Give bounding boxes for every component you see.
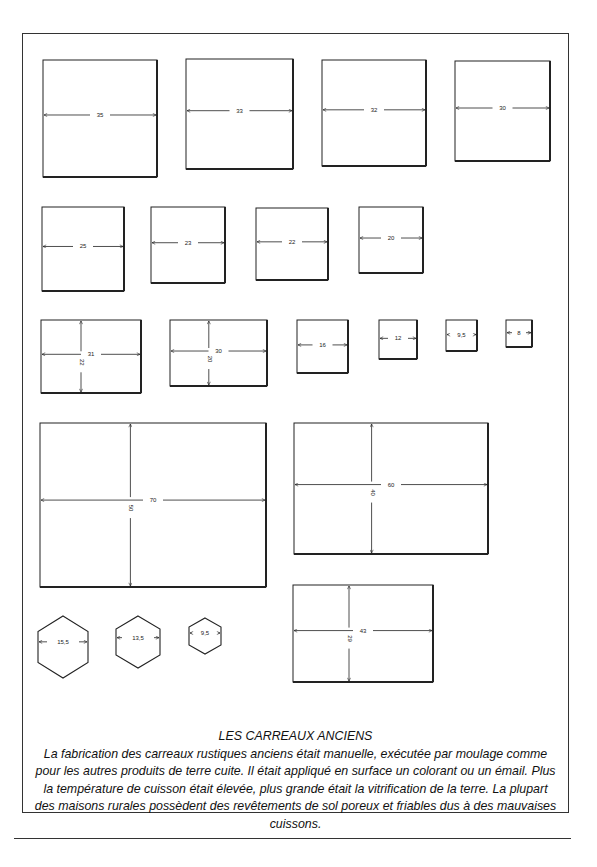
tile-rect-60x40: 6040 [294,423,488,554]
tile-sq-35: 35 [43,60,157,177]
width-label: 9,5 [201,630,210,636]
width-label: 60 [388,482,395,488]
width-label: 8 [517,330,521,336]
width-label: 25 [80,243,87,249]
tile-hex-13-5: 13,5 [116,616,160,668]
tile-sq-32: 32 [322,60,426,166]
tile-sq-12: 12 [379,320,417,359]
height-label: 22 [79,359,85,366]
tile-hex-9-5: 9,5 [189,618,221,654]
width-label: 32 [371,107,378,113]
width-label: 31 [88,351,95,357]
tile-rect-43x29: 4329 [293,585,433,682]
width-label: 30 [215,348,222,354]
tile-sq-8: 8 [506,320,532,347]
tile-rect-30x20: 3020 [170,320,267,386]
tile-rect-31x22: 3122 [41,320,141,393]
width-label: 9,5 [457,332,466,338]
width-label: 23 [185,240,192,246]
height-label: 29 [347,635,353,642]
width-label: 30 [499,105,506,111]
width-label: 33 [236,108,243,114]
width-label: 35 [97,112,104,118]
tile-sq-33: 33 [186,59,293,169]
tile-sq-16: 16 [297,320,348,373]
caption-title: LES CARREAUX ANCIENS [22,728,569,746]
tile-sq-30: 30 [455,61,550,161]
height-label: 20 [207,356,213,363]
tile-sq-9-5: 9,5 [446,320,477,351]
height-label: 50 [128,505,134,512]
figure-caption: LES CARREAUX ANCIENS La fabrication des … [22,728,569,834]
tile-rect-70x50: 7050 [40,423,266,587]
tile-sq-20: 20 [359,207,423,273]
tile-sq-25: 25 [42,207,124,291]
width-label: 16 [319,342,326,348]
width-label: 20 [388,235,395,241]
width-label: 43 [360,628,367,634]
tile-sq-23: 23 [151,207,225,283]
height-label: 40 [370,489,376,496]
tile-hex-15-5: 15,5 [38,616,88,678]
width-label: 70 [150,497,157,503]
width-label: 15,5 [57,639,69,645]
width-label: 13,5 [132,635,144,641]
tile-sq-22: 22 [256,208,328,280]
width-label: 22 [289,239,296,245]
footer-rule [14,838,571,839]
width-label: 12 [395,335,402,341]
caption-body: La fabrication des carreaux rustiques an… [22,746,569,834]
